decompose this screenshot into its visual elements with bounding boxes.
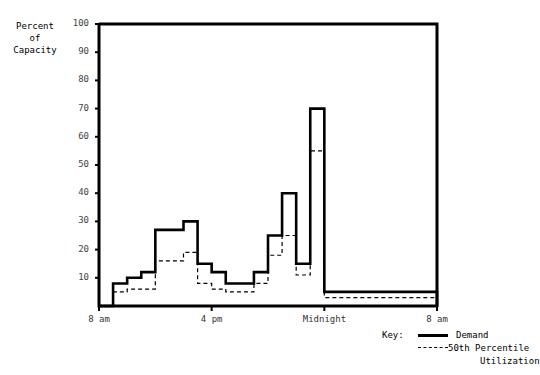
legend-label-percentile-cont: Utilization [480,355,540,368]
y-tick-label: 20 [59,245,89,254]
legend-label-demand: Demand [456,329,489,342]
legend-label-percentile: 50th Percentile [448,342,529,355]
y-tick-label: 100 [59,19,89,28]
y-tick-label: 70 [59,104,89,113]
x-tick-label: 4 pm [201,315,223,324]
y-tick-label: 60 [59,132,89,141]
series-50th-percentile-utilization [99,151,437,306]
x-tick-label: Midnight [303,315,346,324]
x-tick-label: 8 am [426,315,448,324]
y-tick-label: 40 [59,188,89,197]
series-demand [99,109,437,306]
y-tick-label: 80 [59,75,89,84]
y-axis-title-line-2: of [2,32,68,44]
y-tick-label: 30 [59,216,89,225]
y-tick-label: 50 [59,160,89,169]
y-tick-label: 90 [59,47,89,56]
x-tick-label: 8 am [88,315,110,324]
solid-line-icon [418,334,448,337]
legend-key-label: Key: [382,329,404,342]
y-tick-label: 10 [59,273,89,282]
dashed-line-icon [418,347,448,348]
